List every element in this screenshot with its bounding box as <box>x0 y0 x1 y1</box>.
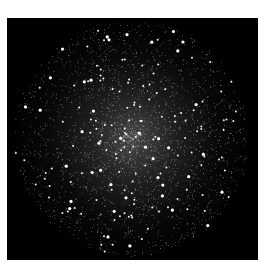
star-field <box>7 18 258 260</box>
star-cluster-image <box>7 18 258 260</box>
